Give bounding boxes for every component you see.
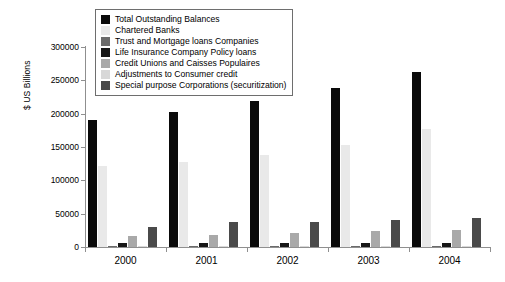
bar [422, 129, 431, 247]
legend-item: Chartered Banks [101, 25, 286, 36]
bar [412, 72, 421, 247]
legend-swatch-icon [101, 48, 110, 57]
legend-label: Total Outstanding Balances [115, 15, 220, 24]
y-tick-label: 100000 [27, 176, 79, 184]
y-tick-mark [81, 114, 85, 115]
bar [371, 231, 380, 247]
bar [199, 243, 208, 247]
bar [331, 88, 340, 247]
x-axis-line [85, 247, 491, 248]
y-tick-label: 0 [27, 243, 79, 251]
bar [341, 145, 350, 247]
bar [128, 236, 137, 247]
x-tick-mark [247, 247, 248, 252]
bar-group-2003 [331, 47, 401, 247]
bar [462, 246, 471, 247]
y-tick-label: 150000 [27, 143, 79, 151]
legend-item: Credit Unions and Caisses Populaires [101, 58, 286, 69]
bar [260, 155, 269, 247]
bar [189, 246, 198, 247]
bar [381, 246, 390, 247]
bar [361, 243, 370, 247]
legend-swatch-icon [101, 26, 110, 35]
x-axis-end-tick [85, 247, 86, 252]
bar-chart: $ US Billions 05000010000015000020000025… [0, 0, 505, 282]
legend-item: Trust and Mortgage loans Companies [101, 36, 286, 47]
x-tick-label: 2004 [410, 255, 490, 266]
legend-item: Special purpose Corporations (securitiza… [101, 80, 286, 91]
legend-label: Life Insurance Company Policy loans [115, 48, 256, 57]
bar [300, 246, 309, 247]
x-tick-label: 2003 [329, 255, 409, 266]
legend-swatch-icon [101, 15, 110, 24]
legend-label: Special purpose Corporations (securitiza… [115, 81, 286, 90]
bar [290, 233, 299, 247]
x-tick-mark [328, 247, 329, 252]
legend-swatch-icon [101, 70, 110, 79]
bar [452, 230, 461, 247]
bar [310, 222, 319, 247]
legend-item: Life Insurance Company Policy loans [101, 47, 286, 58]
y-tick-label: 300000 [27, 43, 79, 51]
bar [98, 166, 107, 247]
legend-swatch-icon [101, 59, 110, 68]
y-tick-mark [81, 214, 85, 215]
legend-item: Total Outstanding Balances [101, 14, 286, 25]
bar [432, 246, 441, 247]
bar-group-2004 [412, 47, 482, 247]
chart-legend: Total Outstanding BalancesChartered Bank… [95, 9, 293, 96]
bar [270, 246, 279, 247]
legend-label: Credit Unions and Caisses Populaires [115, 59, 260, 68]
y-tick-mark [81, 80, 85, 81]
y-tick-mark [81, 147, 85, 148]
bar [138, 246, 147, 247]
legend-label: Chartered Banks [115, 26, 180, 35]
legend-swatch-icon [101, 81, 110, 90]
x-tick-mark [409, 247, 410, 252]
bar [118, 243, 127, 247]
x-tick-label: 2000 [86, 255, 166, 266]
legend-label: Trust and Mortgage loans Companies [115, 37, 258, 46]
bar [148, 227, 157, 247]
bar [169, 112, 178, 247]
bar [179, 162, 188, 247]
bar [280, 243, 289, 247]
bar [442, 243, 451, 247]
y-tick-mark [81, 47, 85, 48]
bar [219, 246, 228, 247]
y-tick-label: 250000 [27, 76, 79, 84]
bar [88, 120, 97, 247]
bar [351, 246, 360, 247]
x-tick-label: 2002 [248, 255, 328, 266]
y-tick-label: 200000 [27, 110, 79, 118]
bar [472, 218, 481, 247]
y-tick-label: 50000 [27, 210, 79, 218]
bar [209, 235, 218, 247]
y-tick-mark [81, 180, 85, 181]
bar [250, 101, 259, 247]
bar [229, 222, 238, 247]
y-axis-line [85, 46, 86, 248]
legend-item: Adjustments to Consumer credit [101, 69, 286, 80]
bar [108, 246, 117, 247]
x-tick-mark [166, 247, 167, 252]
bar [391, 220, 400, 247]
x-tick-label: 2001 [167, 255, 247, 266]
legend-label: Adjustments to Consumer credit [115, 70, 237, 79]
y-axis-title: $ US Billions [22, 0, 32, 110]
x-axis-end-tick [490, 247, 491, 252]
legend-swatch-icon [101, 37, 110, 46]
